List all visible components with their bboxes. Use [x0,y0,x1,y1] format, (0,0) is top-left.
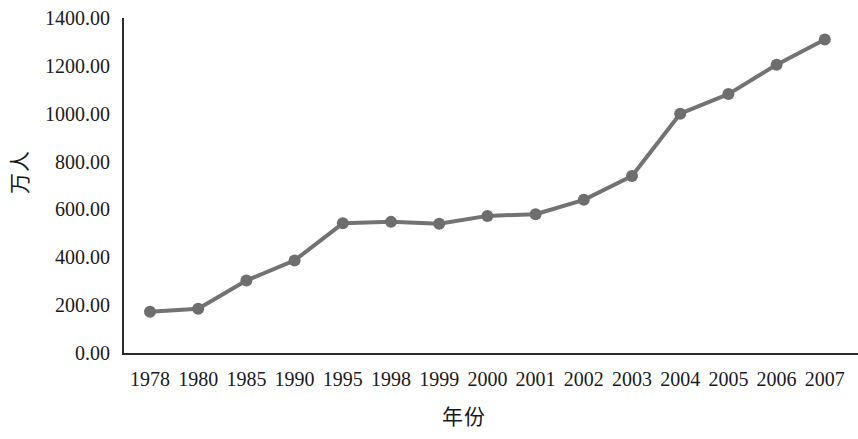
data-point-marker: 2003: 740.00 [626,170,638,182]
x-axis-line [122,353,858,355]
data-point-marker: 1978: 172.00 [144,306,156,318]
data-point-marker: 1985: 303.00 [240,275,252,287]
y-axis-tick-label: 1200.00 [0,56,110,76]
data-point-marker: 1995: 542.00 [337,217,349,229]
y-axis-tick-label: 1000.00 [0,104,110,124]
data-point-marker: 1980: 185.00 [192,303,204,315]
x-axis-tick-label: 2007 [797,366,853,392]
y-axis-tick-label: 200.00 [0,295,110,315]
series-line-万人: 1978: 172.001980: 185.001985: 303.001990… [122,18,858,353]
data-point-marker: 2001: 580.00 [530,208,542,220]
y-axis-tick-label: 0.00 [0,343,110,363]
y-axis-tick-label: 800.00 [0,152,110,172]
x-axis-tick-labels: 1978198019851990199519981999200020012002… [0,366,858,394]
data-point-marker: 1999: 540.00 [433,218,445,230]
data-point-marker: 2004: 1000.00 [674,108,686,120]
x-axis-title: 年份 [0,404,858,430]
data-point-marker: 2006: 1205.00 [771,59,783,71]
y-axis-tick-label: 400.00 [0,247,110,267]
plot-area: 1978: 172.001980: 185.001985: 303.001990… [122,18,858,353]
data-point-marker: 2000: 573.00 [481,210,493,222]
y-axis-tick-label: 600.00 [0,199,110,219]
data-point-marker: 2007: 1310.00 [819,34,831,46]
data-point-marker: 2002: 640.00 [578,194,590,206]
data-point-marker: 1998: 548.00 [385,216,397,228]
line-chart: 万人 0.00200.00400.00600.00800.001000.0012… [0,0,858,439]
data-point-marker: 1990: 387.00 [289,254,301,266]
y-axis-tick-label: 1400.00 [0,8,110,28]
data-point-marker: 2005: 1082.00 [722,88,734,100]
series-path [150,40,825,312]
